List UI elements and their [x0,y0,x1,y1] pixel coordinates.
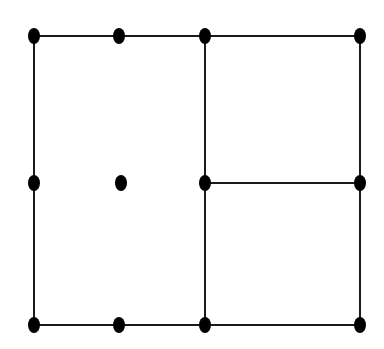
node-n7 [199,175,211,191]
node-n11 [199,317,211,333]
grid-diagram [0,0,384,349]
node-n6 [115,175,127,191]
node-n4 [354,28,366,44]
node-n9 [28,317,40,333]
edges [34,36,360,325]
node-n3 [199,28,211,44]
node-n1 [28,28,40,44]
node-n2 [113,28,125,44]
node-n10 [113,317,125,333]
node-n5 [28,175,40,191]
nodes [28,28,366,333]
node-n12 [354,317,366,333]
node-n8 [354,175,366,191]
